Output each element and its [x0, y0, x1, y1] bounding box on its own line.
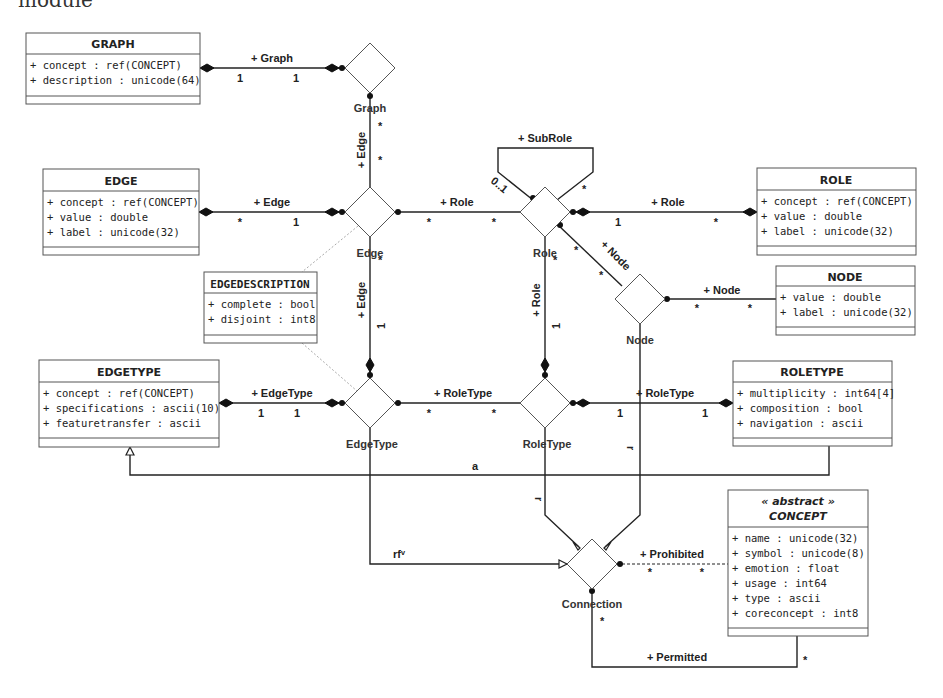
- subrole-assoc-label: + SubRole: [518, 132, 572, 144]
- connection-diamond-label: Connection: [562, 598, 623, 610]
- class-attribute: + value : double: [780, 291, 881, 303]
- class-attribute: + symbol : unicode(8): [732, 547, 865, 559]
- class-title: GRAPH: [91, 38, 134, 51]
- multiplicity: 1: [237, 72, 243, 84]
- class-attribute: + navigation : ascii: [737, 417, 863, 429]
- roletype-diamond-label: RoleType: [523, 438, 572, 450]
- multiplicity: 1: [293, 216, 299, 228]
- graph-diamond[interactable]: [345, 43, 395, 93]
- connection-diamond[interactable]: [567, 539, 617, 589]
- class-edgedescription[interactable]: EDGEDESCRIPTION + complete : bool + disj…: [204, 272, 317, 343]
- class-role[interactable]: ROLE + concept : ref(CONCEPT) + value : …: [757, 168, 916, 255]
- multiplicity: *: [378, 154, 383, 166]
- class-attribute: + value : double: [47, 211, 148, 223]
- class-title: EDGE: [104, 175, 137, 188]
- class-roletype[interactable]: ROLETYPE + multiplicity : int64[4] + com…: [733, 361, 895, 446]
- roletype-roletype-assoc-label: + RoleType: [636, 387, 694, 399]
- class-attribute: + description : unicode(64): [30, 74, 201, 86]
- class-attribute: + label : unicode(32): [780, 306, 913, 318]
- roletype-diamond[interactable]: [520, 378, 570, 428]
- generalization-arrows: [126, 447, 611, 568]
- class-attribute: + concept : ref(CONCEPT): [761, 195, 913, 207]
- edgetype-connection-label: rfᵛ: [393, 548, 406, 560]
- class-title: CONCEPT: [769, 510, 828, 523]
- class-attribute: + specifications : ascii(10): [43, 402, 220, 414]
- role-role-assoc-label: + Role: [651, 196, 684, 208]
- roletype-assoc-label: + RoleType: [434, 387, 492, 399]
- class-attribute: + concept : ref(CONCEPT): [43, 387, 195, 399]
- class-attribute: + multiplicity : int64[4]: [737, 387, 895, 399]
- multiplicity: *: [378, 120, 383, 132]
- prohibited-assoc-label: + Prohibited: [640, 548, 704, 560]
- multiplicity: *: [378, 254, 383, 266]
- multiplicity: 1: [375, 323, 387, 329]
- node-diamond-label: Node: [626, 334, 654, 346]
- roletype-connection-label: r: [533, 497, 545, 502]
- class-edge[interactable]: EDGE + concept : ref(CONCEPT) + value : …: [43, 169, 199, 255]
- class-attribute: + concept : ref(CONCEPT): [47, 196, 199, 208]
- multiplicity: 1: [615, 216, 621, 228]
- association-class-diamonds: [345, 43, 665, 589]
- multiplicity: *: [803, 654, 808, 666]
- multiplicity: *: [238, 216, 243, 228]
- edge-edgetype-assoc-label: + Edge: [355, 282, 367, 318]
- multiplicity: *: [582, 183, 587, 195]
- class-graph[interactable]: GRAPH + concept : ref(CONCEPT) + descrip…: [26, 33, 201, 104]
- multiplicity: 1: [258, 407, 264, 419]
- class-attribute: + value : double: [761, 210, 862, 222]
- class-attribute: + composition : bool: [737, 402, 863, 414]
- role-node-assoc-label: + Node: [599, 238, 634, 273]
- uml-class-diagram: Graph Edge Role Node EdgeType RoleType C…: [0, 0, 943, 698]
- graph-diamond-label: Graph: [354, 102, 387, 114]
- role-assoc-label: + Role: [440, 196, 473, 208]
- class-concept[interactable]: « abstract » CONCEPT + name : unicode(32…: [728, 490, 868, 636]
- multiplicity: 0..1: [489, 174, 511, 195]
- association-labels: + Graph 1 1 + Edge * * + Edge * 1 + Role…: [237, 52, 808, 666]
- node-connection-label: r: [625, 446, 637, 451]
- multiplicity: 1: [617, 407, 623, 419]
- class-title: ROLETYPE: [780, 366, 843, 379]
- permitted-assoc-label: + Permitted: [647, 651, 707, 663]
- class-attribute: + type : ascii: [732, 592, 821, 604]
- generalization-label: a: [472, 460, 479, 472]
- multiplicity: *: [599, 269, 604, 281]
- multiplicity: *: [492, 407, 497, 419]
- class-title: ROLE: [820, 174, 852, 187]
- class-attribute: + concept : ref(CONCEPT): [30, 59, 182, 71]
- multiplicity: *: [427, 407, 432, 419]
- multiplicity: 1: [702, 407, 708, 419]
- class-title: EDGETYPE: [97, 366, 161, 379]
- multiplicity: *: [748, 302, 753, 314]
- edgetype-diamond[interactable]: [345, 378, 395, 428]
- class-edgetype[interactable]: EDGETYPE + concept : ref(CONCEPT) + spec…: [39, 360, 220, 447]
- edge-diamond[interactable]: [345, 187, 395, 237]
- multiplicity: *: [553, 254, 558, 266]
- class-attribute: + label : unicode(32): [761, 225, 894, 237]
- class-node[interactable]: NODE + value : double + label : unicode(…: [776, 266, 915, 335]
- role-roletype-assoc-label: + Role: [530, 283, 542, 316]
- class-stereotype: « abstract »: [761, 495, 835, 508]
- edgetype-diamond-label: EdgeType: [346, 438, 398, 450]
- multiplicity: *: [600, 615, 605, 627]
- edge-assoc-label: + Edge: [254, 196, 290, 208]
- graph-assoc-label: + Graph: [251, 52, 293, 64]
- class-attribute: + emotion : float: [732, 562, 839, 574]
- class-attribute: + complete : bool: [208, 298, 315, 310]
- class-title: EDGEDESCRIPTION: [210, 278, 309, 291]
- node-assoc-label: + Node: [704, 284, 741, 296]
- node-diamond[interactable]: [615, 274, 665, 324]
- multiplicity: *: [695, 302, 700, 314]
- multiplicity: 1: [294, 407, 300, 419]
- class-attribute: + usage : int64: [732, 577, 827, 589]
- class-attribute: + featuretransfer : ascii: [43, 417, 201, 429]
- class-attribute: + label : unicode(32): [47, 226, 180, 238]
- multiplicity: *: [427, 216, 432, 228]
- multiplicity: *: [648, 566, 653, 578]
- multiplicity: *: [574, 244, 579, 256]
- class-attribute: + coreconcept : int8: [732, 607, 858, 619]
- class-attribute: + name : unicode(32): [732, 532, 858, 544]
- class-title: NODE: [827, 271, 862, 284]
- multiplicity: *: [700, 566, 705, 578]
- edgetype-assoc-label: + EdgeType: [251, 387, 312, 399]
- class-attribute: + disjoint : int8: [208, 313, 315, 325]
